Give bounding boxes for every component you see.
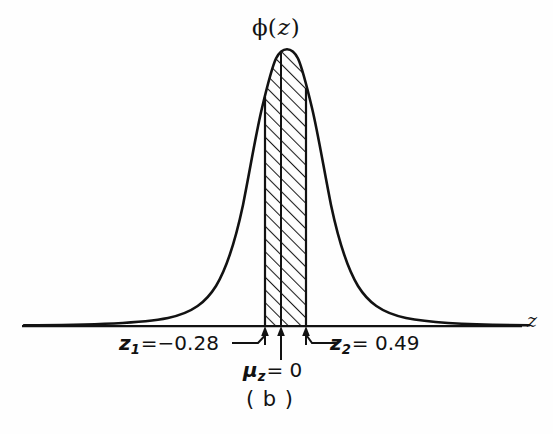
phi-variable: z xyxy=(277,14,291,40)
density-function-label: ϕ(z) xyxy=(252,16,300,39)
phi-open: ϕ( xyxy=(252,14,277,40)
z2-value: = 0.49 xyxy=(352,331,420,355)
mu-value: = 0 xyxy=(266,358,302,382)
mu-variable: μ xyxy=(243,358,258,382)
phi-close: ) xyxy=(291,14,300,40)
z-axis-label: z xyxy=(527,311,537,330)
normal-distribution-figure: ϕ(z) z z1=−0.28 z2= 0.49 μz= 0 ( b ) xyxy=(0,0,553,434)
z1-annotation: z1=−0.28 xyxy=(119,333,219,356)
z1-variable: z xyxy=(119,331,131,355)
z2-annotation: z2= 0.49 xyxy=(330,333,419,356)
figure-caption: ( b ) xyxy=(246,389,294,410)
z1-subscript: 1 xyxy=(131,342,141,357)
z1-value: =−0.28 xyxy=(141,331,219,355)
z1-arrow-marker xyxy=(261,326,269,345)
mean-arrow-marker xyxy=(277,326,285,360)
z2-arrow-marker xyxy=(302,326,310,345)
mean-annotation: μz= 0 xyxy=(243,360,302,383)
z1-leader-line xyxy=(232,336,265,343)
z2-subscript: 2 xyxy=(342,342,352,357)
z2-variable: z xyxy=(330,331,342,355)
